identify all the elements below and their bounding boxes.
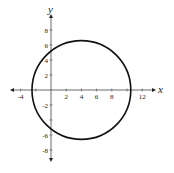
axes bbox=[12, 16, 154, 160]
y-tick-label: 4 bbox=[45, 57, 49, 65]
circle-graph: -42468128642-2-6-8 x y bbox=[0, 0, 174, 173]
y-axis-label: y bbox=[47, 3, 53, 15]
x-tick-label: 6 bbox=[95, 93, 99, 101]
y-tick-label: 2 bbox=[45, 72, 49, 80]
y-tick-label: -2 bbox=[42, 102, 48, 110]
x-tick-label: 2 bbox=[64, 93, 68, 101]
y-tick-label: 6 bbox=[45, 42, 49, 50]
x-axis-label: x bbox=[157, 83, 163, 95]
y-tick-label: -6 bbox=[42, 132, 48, 140]
x-tick-label: 8 bbox=[110, 93, 114, 101]
x-tick-label: 12 bbox=[139, 93, 147, 101]
x-tick-label: 4 bbox=[80, 93, 84, 101]
y-tick-label: 8 bbox=[45, 27, 49, 35]
y-tick-label: -8 bbox=[42, 147, 48, 155]
x-tick-label: -4 bbox=[18, 93, 24, 101]
